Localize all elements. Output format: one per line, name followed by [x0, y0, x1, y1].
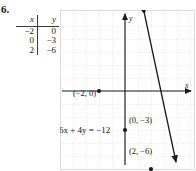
table-header-x: x: [16, 15, 38, 26]
data-point: [149, 167, 153, 171]
point-label: (0, −3): [129, 115, 152, 125]
data-point: [97, 89, 101, 93]
table-row: 2 −6: [16, 46, 59, 56]
worksheet-problem-figure: 6. x y −2 0 0 −3 2 −6: [0, 0, 196, 171]
equation-label: 6x + 4y = −12: [60, 125, 110, 135]
x-axis-label: x: [184, 81, 189, 90]
y-axis-label: y: [128, 14, 133, 23]
table-header-row: x y: [16, 15, 59, 26]
table-cell-x: 0: [16, 36, 38, 46]
coordinate-graph: y x (−2, 0) (0, −3) (2, −6) 6x + 4y = −1…: [60, 10, 196, 171]
problem-number: 6.: [1, 4, 9, 15]
point-label: (−2, 0): [73, 88, 96, 98]
point-label: (2, −6): [129, 146, 152, 156]
table-cell-y: −6: [38, 46, 60, 56]
table-header-y: y: [38, 15, 60, 26]
table-cell-x: 2: [16, 46, 38, 56]
table-cell-x: −2: [16, 26, 38, 36]
data-point: [123, 128, 127, 132]
value-table: x y −2 0 0 −3 2 −6: [16, 15, 59, 55]
